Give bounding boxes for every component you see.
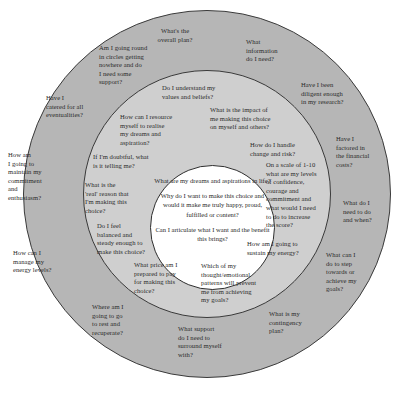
outer-question-contingency-plan: What is my contingency plan? xyxy=(269,310,331,336)
outer-question-overall-plan: What's the overall plan? xyxy=(139,27,211,44)
middle-question-resource-dreams: How can I resource myself to realise my … xyxy=(120,113,196,147)
middle-question-price-to-pay: What price am I prepared to pay for maki… xyxy=(134,261,200,295)
inner-question-dreams-aspirations: What are my dreams and aspirations in li… xyxy=(152,176,273,185)
outer-question-step-towards-goals: What can I do to step towards or achieve… xyxy=(326,251,388,294)
middle-question-thought-patterns: Which of my thought/emotional patterns w… xyxy=(201,262,283,305)
middle-question-confidence-scale: On a scale of 1-10 what are my levels of… xyxy=(266,161,336,230)
middle-question-support-surround: What support do I need to surround mysel… xyxy=(178,325,248,359)
inner-circle-questions: What are my dreams and aspirations in li… xyxy=(152,176,273,243)
outer-question-commitment-enthusiasm: How am I going to maintain my commitment… xyxy=(8,151,74,203)
outer-question-information: What information do I need? xyxy=(246,38,312,64)
diagram-canvas: What's the overall plan? What informatio… xyxy=(0,0,414,397)
outer-question-rest-recuperate: Where am I going to go to rest and recup… xyxy=(92,303,158,337)
middle-question-real-reason: What is the 'real' reason that I'm makin… xyxy=(85,181,151,215)
middle-question-values-beliefs: Do I understand my values and beliefs? xyxy=(162,84,246,101)
outer-question-circles-support: Am I going round in circles getting nowh… xyxy=(99,44,177,87)
middle-question-doubtful-telling: If I'm doubtful, what is it telling me? xyxy=(93,153,177,170)
outer-question-what-when: What do I need to do and when? xyxy=(343,199,403,225)
middle-question-change-risk: How do I handle change and risk? xyxy=(250,141,318,158)
outer-question-eventualities: Have I catered for all eventualities? xyxy=(46,94,114,120)
inner-question-why-this-choice: Why do I want to make this choice and wo… xyxy=(152,191,273,219)
outer-question-financial-costs: Have I factored in the financial costs? xyxy=(336,135,398,169)
outer-question-diligent-research: Have I been diligent enough in my resear… xyxy=(301,81,371,107)
outer-question-energy-levels: How can I manage my energy levels? xyxy=(13,249,77,275)
middle-question-impact-of-choice: What is the impact of me making this cho… xyxy=(210,106,302,132)
inner-question-articulate-benefit: Can I articulate what I want and the ben… xyxy=(152,225,273,243)
